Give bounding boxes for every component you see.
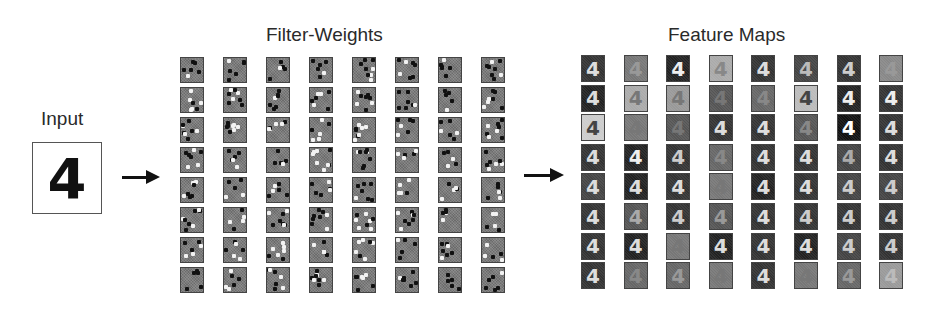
filter-weight-cell — [309, 147, 333, 173]
weight-pixel — [274, 105, 278, 109]
feature-map-digit: 4 — [586, 59, 600, 79]
feature-map-cell: 4 — [879, 173, 903, 200]
filter-weight-cell — [309, 87, 333, 113]
weight-pixel — [322, 250, 326, 254]
weight-pixel — [404, 106, 408, 110]
filter-weight-cell — [223, 177, 247, 203]
feature-map-digit: 4 — [799, 177, 813, 197]
feature-map-cell: 4 — [624, 233, 648, 260]
weight-pixel — [405, 191, 409, 195]
weight-pixel — [232, 227, 236, 231]
weight-pixel — [482, 105, 486, 109]
filter-weight-cell — [352, 207, 376, 233]
weight-pixel — [485, 64, 489, 68]
weight-pixel — [314, 191, 318, 195]
filter-weight-cell — [438, 207, 462, 233]
feature-map-cell: 4 — [709, 144, 733, 171]
filter-weight-cell — [266, 267, 290, 293]
weight-pixel — [450, 284, 454, 288]
weight-pixel — [397, 58, 401, 62]
weight-pixel — [183, 241, 187, 245]
weight-pixel — [310, 128, 314, 132]
feature-map-cell: 4 — [794, 173, 818, 200]
weight-pixel — [371, 284, 375, 288]
weight-pixel — [328, 148, 332, 152]
weight-pixel — [499, 73, 503, 77]
weight-pixel — [228, 69, 232, 73]
weight-pixel — [447, 182, 451, 186]
filter-weight-cell — [395, 237, 419, 263]
weight-pixel — [500, 106, 504, 110]
weight-pixel — [182, 68, 186, 72]
feature-map-digit: 4 — [586, 177, 600, 197]
filter-weight-cell — [180, 207, 204, 233]
feature-map-digit: 4 — [842, 118, 856, 138]
filter-weight-cell — [266, 117, 290, 143]
weight-pixel — [407, 222, 411, 226]
weight-pixel — [184, 228, 188, 232]
weight-pixel — [440, 256, 444, 260]
feature-map-digit: 4 — [671, 147, 685, 167]
feature-map-digit: 4 — [586, 236, 600, 256]
feature-map-cell: 4 — [581, 203, 605, 230]
weight-pixel — [191, 101, 195, 105]
feature-map-digit: 4 — [756, 59, 770, 79]
weight-pixel — [371, 58, 375, 62]
weight-pixel — [446, 164, 450, 168]
weight-pixel — [320, 118, 324, 122]
weight-pixel — [312, 103, 316, 107]
weight-pixel — [227, 149, 231, 153]
filter-weight-cell — [481, 87, 505, 113]
feature-map-digit: 4 — [629, 177, 643, 197]
weight-pixel — [238, 257, 242, 261]
weight-pixel — [318, 63, 322, 67]
weight-pixel — [328, 188, 332, 192]
weight-pixel — [187, 222, 191, 226]
feature-map-digit: 4 — [842, 266, 856, 286]
weight-pixel — [193, 61, 197, 65]
weight-pixel — [276, 94, 280, 98]
weight-pixel — [227, 59, 231, 63]
feature-map-cell: 4 — [709, 203, 733, 230]
filter-weight-cell — [266, 57, 290, 83]
weight-pixel — [318, 215, 322, 219]
weight-pixel — [442, 151, 446, 155]
filter-weight-cell — [438, 177, 462, 203]
weight-pixel — [396, 152, 400, 156]
filter-weight-cell — [481, 237, 505, 263]
feature-map-digit: 4 — [586, 266, 600, 286]
weight-pixel — [184, 254, 188, 258]
filter-weight-cell — [481, 147, 505, 173]
input-label: Input — [41, 108, 83, 130]
weight-pixel — [282, 223, 286, 227]
weight-pixel — [439, 120, 443, 124]
feature-map-digit: 4 — [842, 59, 856, 79]
weight-pixel — [441, 249, 445, 253]
feature-map-cell: 4 — [581, 114, 605, 141]
weight-pixel — [356, 288, 360, 292]
weight-pixel — [406, 130, 410, 134]
filter-weight-cell — [180, 267, 204, 293]
weight-pixel — [196, 163, 200, 167]
weight-pixel — [267, 211, 271, 215]
weight-pixel — [326, 163, 330, 167]
weight-pixel — [322, 71, 326, 75]
weight-pixel — [486, 124, 490, 128]
filter-weight-cell — [309, 207, 333, 233]
filter-weight-cell — [223, 267, 247, 293]
filter-weight-cell — [223, 57, 247, 83]
weight-pixel — [444, 74, 448, 78]
weight-pixel — [312, 150, 316, 154]
feature-map-digit: 4 — [884, 177, 898, 197]
weight-pixel — [233, 88, 237, 92]
feature-map-digit: 4 — [671, 88, 685, 108]
weight-pixel — [406, 100, 410, 104]
weight-pixel — [492, 77, 496, 81]
arrow-right-icon — [524, 174, 552, 177]
feature-map-cell: 4 — [666, 144, 690, 171]
weight-pixel — [191, 252, 195, 256]
filter-weight-cell — [180, 147, 204, 173]
weight-pixel — [231, 97, 235, 101]
filter-weight-cell — [438, 267, 462, 293]
feature-map-cell: 4 — [794, 85, 818, 112]
